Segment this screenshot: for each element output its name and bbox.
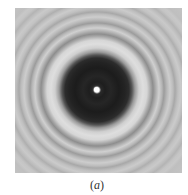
- central-bright-spot: [94, 87, 99, 92]
- diffraction-pattern-image: [15, 8, 182, 173]
- caption-close-paren: ): [100, 178, 104, 192]
- figure-caption: (a): [0, 178, 188, 193]
